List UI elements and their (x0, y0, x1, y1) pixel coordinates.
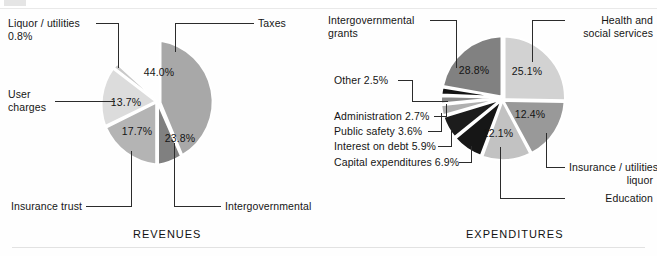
label-insurance-utilities-liquor: Insurance / utilities / liquor (569, 161, 653, 186)
leader-taxes (175, 23, 254, 52)
expenditures-value-health-social: 25.1% (512, 65, 542, 77)
label-other: Other 2.5% (334, 74, 388, 87)
label-health-social-services: Health and social services (569, 14, 653, 39)
revenues-value-user-charges: 13.7% (111, 96, 141, 108)
caption-revenues: REVENUES (133, 228, 201, 240)
caption-expenditures: EXPENDITURES (466, 228, 563, 240)
label-taxes: Taxes (258, 17, 286, 30)
label-user-charges: User charges (8, 88, 70, 113)
leader-intergovernmental-grants (430, 20, 456, 68)
revenues-value-intergovernmental: 23.8% (165, 132, 195, 144)
label-interest-on-debt: Interest on debt 5.9% (334, 140, 436, 153)
label-capital-expenditures: Capital expenditures 6.9% (334, 156, 459, 169)
expenditures-value-insurance-utilities-liquor: 12.4% (515, 108, 545, 120)
label-insurance-trust: Insurance trust (11, 200, 82, 213)
expenditures-value-intergovernmental-grants: 28.8% (459, 64, 489, 76)
label-intergovernmental-grants: Intergovernmental grants (328, 14, 430, 39)
expenditures-value-education: 12.1% (483, 127, 513, 139)
label-liquor-utilities: Liquor / utilities 0.8% (8, 17, 104, 42)
label-public-safety: Public safety 3.6% (334, 125, 422, 138)
figure-page: 44.0% 23.8% 17.7% 13.7% (0, 0, 657, 256)
revenues-value-insurance-trust: 17.7% (122, 125, 152, 137)
leader-interest-on-debt (438, 130, 451, 146)
leader-insurance-trust (86, 151, 131, 206)
label-education: Education (569, 192, 653, 205)
label-intergovernmental: Intergovernmental (225, 200, 311, 213)
revenues-value-taxes: 44.0% (144, 66, 174, 78)
label-administration: Administration 2.7% (334, 110, 429, 123)
